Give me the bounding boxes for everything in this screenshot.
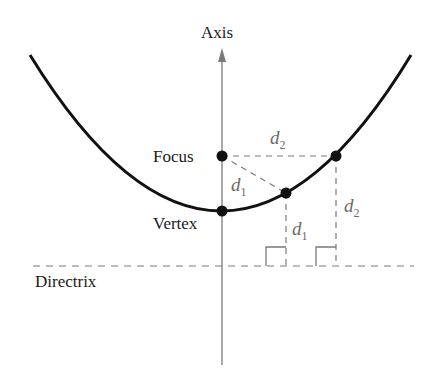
curve-point-1 <box>281 188 292 199</box>
vertex-label: Vertex <box>153 214 198 233</box>
curve-point-2 <box>331 151 342 162</box>
d1-vertical-label: d1 <box>292 218 308 243</box>
focus-point <box>217 151 228 162</box>
focus-label: Focus <box>153 147 194 166</box>
d1-slant-label: d1 <box>231 174 247 199</box>
directrix-label: Directrix <box>35 272 97 291</box>
right-angle-marker-2 <box>316 247 336 266</box>
parabola-diagram: Axis Focus Vertex Directrix d2 d1 d2 d1 <box>0 0 428 386</box>
vertex-point <box>217 206 228 217</box>
d2-top-label: d2 <box>270 127 286 152</box>
axis-arrow-icon <box>218 48 226 62</box>
d2-vertical-label: d2 <box>344 195 360 220</box>
right-angle-marker-1 <box>266 247 286 266</box>
parabola-curve <box>30 55 411 211</box>
axis-label: Axis <box>201 23 233 42</box>
